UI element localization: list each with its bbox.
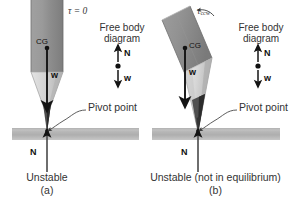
weight-label-a: w xyxy=(51,71,58,81)
fbd-weight-label-a: w xyxy=(124,74,131,84)
pivot-point-label-a: Pivot point xyxy=(88,102,137,114)
pivot-leader-a xyxy=(50,110,87,130)
pivot-leader-b xyxy=(201,110,238,130)
ground-surface xyxy=(12,129,280,141)
fbd-vectors-a xyxy=(115,48,120,84)
weight-label-b: w xyxy=(189,68,196,78)
panel-letter-a: (a) xyxy=(7,185,87,197)
fbd-normal-label-a: N xyxy=(124,49,131,59)
normal-label-a: N xyxy=(30,148,37,158)
fbd-normal-label-b: N xyxy=(264,49,271,59)
fbd-vectors-b xyxy=(255,48,260,84)
fbd-title-a: Free body diagram xyxy=(99,22,145,44)
pencil-tilted xyxy=(162,6,212,133)
status-label-a: Unstable xyxy=(7,172,87,184)
normal-label-b: N xyxy=(181,148,188,158)
torque-subscript-b: ccw xyxy=(200,10,210,16)
panel-letter-b: (b) xyxy=(142,185,289,197)
fbd-title-line2-a: diagram xyxy=(99,33,145,44)
fbd-title-line1-b: Free body xyxy=(235,22,287,33)
cg-label-b: CG xyxy=(189,42,201,51)
torque-label-a: τ = 0 xyxy=(68,6,87,17)
cg-label-a: CG xyxy=(36,38,48,47)
torque-label-b: τccw xyxy=(197,6,210,17)
fbd-weight-label-b: w xyxy=(264,74,271,84)
fbd-body-dot-b xyxy=(255,63,260,68)
status-label-b: Unstable (not in equilibrium) xyxy=(142,172,289,184)
pivot-point-label-b: Pivot point xyxy=(239,102,288,114)
fbd-title-line2-b: diagram xyxy=(235,33,287,44)
fbd-title-line1-a: Free body xyxy=(99,22,145,33)
fbd-body-dot-a xyxy=(115,63,120,68)
fbd-title-b: Free body diagram xyxy=(235,22,287,44)
figure-canvas: τ = 0 Free body diagram N w CG w Pivot p… xyxy=(0,0,289,199)
